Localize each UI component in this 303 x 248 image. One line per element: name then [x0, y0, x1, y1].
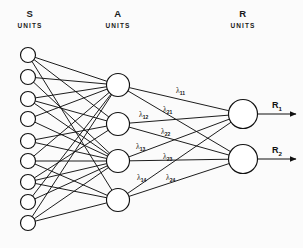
unit-s-6	[21, 154, 36, 169]
unit-r-1	[229, 100, 258, 129]
edge-a1-r2	[128, 91, 231, 152]
output-r1-label: R1	[272, 100, 283, 112]
lambda-2-4-label: λ24	[166, 173, 175, 183]
layer-subtitle-a: UNITS	[106, 22, 131, 29]
lambda-1-3-label: λ13	[136, 142, 145, 152]
unit-s-7	[21, 175, 36, 190]
weight-labels: λ11λ21λ12λ22λ13λ23λ14λ24	[136, 86, 185, 183]
output-r2-label: R2	[272, 145, 283, 157]
sensory-to-association-edges	[32, 57, 112, 221]
edge-s2-a1	[35, 78, 106, 84]
lambda-1-1-label: λ11	[176, 86, 185, 96]
unit-s-4	[21, 112, 36, 127]
lambda-2-3-label: λ23	[163, 152, 172, 162]
unit-s-1	[21, 48, 36, 63]
layer-subtitle-r: UNITS	[231, 22, 256, 29]
unit-s-2	[21, 70, 36, 85]
layer-title-a: A	[114, 8, 121, 19]
unit-s-5	[21, 134, 36, 149]
unit-a-1	[107, 74, 130, 97]
perceptron-diagram: SUNITSAUNITSRUNITS λ11λ21λ12λ22λ13λ23λ14…	[0, 0, 303, 248]
lambda-1-2-label: λ12	[139, 110, 148, 120]
edge-s9-a4	[35, 203, 107, 221]
layer-title-s: S	[27, 8, 34, 19]
unit-s-9	[21, 216, 36, 231]
unit-a-2	[107, 113, 130, 136]
lambda-2-2-label: λ22	[161, 127, 170, 137]
lambda-2-1-label: λ21	[163, 105, 172, 115]
unit-s-8	[21, 195, 36, 210]
unit-s-3	[21, 92, 36, 107]
unit-a-4	[107, 189, 130, 212]
layer-headers: SUNITSAUNITSRUNITS	[18, 8, 256, 29]
network-svg: SUNITSAUNITSRUNITS λ11λ21λ12λ22λ13λ23λ14…	[0, 0, 303, 248]
edge-s9-a3	[34, 168, 108, 219]
layer-title-r: R	[239, 8, 246, 19]
edge-s1-a1	[35, 57, 107, 81]
layer-subtitle-s: UNITS	[18, 22, 43, 29]
edge-a3-r2	[130, 159, 229, 161]
output-arrows: R1R2	[258, 100, 296, 159]
lambda-1-4-label: λ14	[137, 173, 146, 183]
unit-r-2	[229, 145, 258, 174]
unit-a-3	[107, 150, 130, 173]
unit-nodes	[21, 48, 258, 231]
